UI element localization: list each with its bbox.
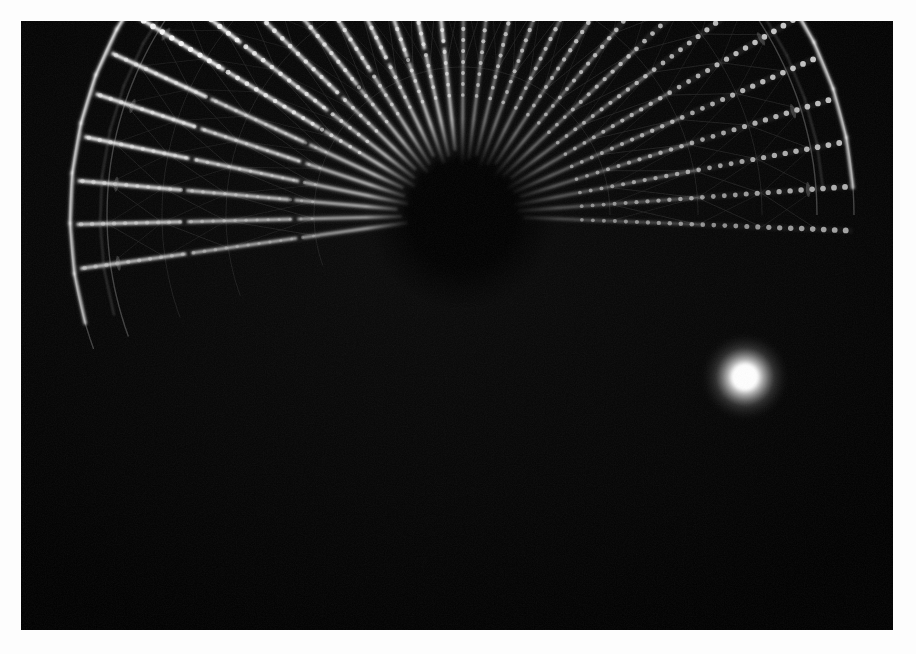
film-grain (21, 21, 893, 630)
photo-border (0, 0, 916, 654)
ferris-wheel-scene (21, 21, 893, 630)
ferris-wheel-photograph (21, 21, 893, 630)
